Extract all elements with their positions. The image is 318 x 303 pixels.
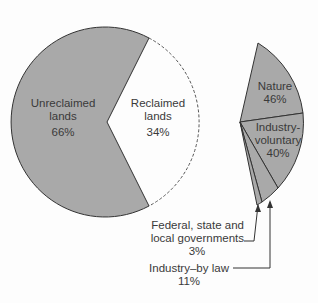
label-value: 40% [246, 147, 310, 160]
label-text: lands [28, 110, 98, 123]
label-text: Industry–by law [146, 262, 232, 275]
arrowhead-federal [255, 204, 261, 212]
label-text: voluntary [246, 134, 310, 147]
label-nature: Nature 46% [250, 80, 300, 106]
label-value: 46% [250, 93, 300, 106]
label-text: Federal, state and [140, 219, 244, 232]
label-value: 34% [126, 126, 190, 139]
arrowhead-by-law [267, 200, 273, 208]
label-text: Reclaimed [126, 97, 190, 110]
label-value: 11% [146, 275, 232, 288]
label-unreclaimed: Unreclaimed lands 66% [28, 97, 98, 139]
label-industry-voluntary: Industry- voluntary 40% [246, 121, 310, 160]
label-value: 3% [140, 245, 244, 258]
label-text: local governments [140, 232, 244, 245]
label-text: Industry- [246, 121, 310, 134]
label-text: lands [126, 110, 190, 123]
label-value: 66% [28, 126, 98, 139]
label-text: Unreclaimed [28, 97, 98, 110]
label-federal: Federal, state and local governments 3% [140, 219, 244, 258]
label-industry-by-law: Industry–by law 11% [146, 262, 232, 288]
label-reclaimed: Reclaimed lands 34% [126, 97, 190, 139]
label-text: Nature [250, 80, 300, 93]
